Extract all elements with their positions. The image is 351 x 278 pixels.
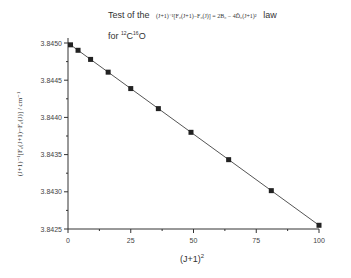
y-tick-label: 3.8430 [41,188,63,195]
data-point [106,70,111,75]
x-tick-label: 0 [66,237,70,244]
x-tick-label: 100 [313,237,325,244]
x-label-base: (J+1) [180,254,201,264]
data-point [188,130,193,135]
y-tick-label: 3.8435 [41,151,63,158]
x-tick-label: 25 [127,237,135,244]
x-tick-label: 75 [252,237,260,244]
y-tick-label: 3.8440 [41,114,63,121]
x-axis-label: (J+1)2 [180,253,204,264]
fit-line [68,43,319,225]
y-axis-label: (J+1)⁻¹[F₀(J+1)−F₀(J)] / cm⁻¹ [16,54,24,214]
data-point [226,157,231,162]
x-label-sup: 2 [201,253,204,259]
x-tick-label: 50 [190,237,198,244]
data-point [317,223,322,228]
y-tick-label: 3.8450 [41,40,63,47]
y-tick-label: 3.8445 [41,77,63,84]
plot-area: 02550751003.84253.84303.84353.84403.8445… [0,0,351,278]
data-point [68,42,73,47]
data-point [88,57,93,62]
y-tick-label: 3.8425 [41,226,63,233]
data-point [128,86,133,91]
data-point [76,48,81,53]
data-point [156,106,161,111]
data-point [269,188,274,193]
